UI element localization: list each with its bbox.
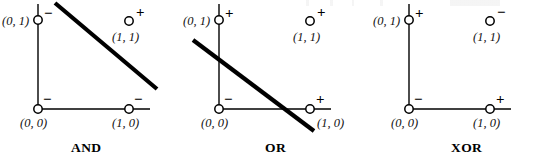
and-sign-1-1: + (136, 4, 145, 20)
and-point-0-1 (34, 16, 42, 24)
xor-point-1-1 (486, 17, 494, 25)
boolean-separability-figure: (0, 1) − (0, 0) − (1, 0) − (1, 1) + AND … (0, 0, 539, 158)
panel-and: (0, 1) − (0, 0) − (1, 0) − (1, 1) + AND (2, 3, 157, 155)
xor-sign-0-0: − (414, 91, 423, 107)
and-label-1-0: (1, 0) (112, 116, 139, 130)
panel-xor: (0, 1) + (0, 0) − (1, 0) + (1, 1) − XOR (373, 4, 511, 155)
figure-canvas: (0, 1) − (0, 0) − (1, 0) − (1, 1) + AND … (0, 0, 539, 158)
and-label-0-1: (0, 1) (2, 14, 29, 28)
or-label-0-1: (0, 1) (183, 14, 210, 28)
xor-point-0-0 (405, 105, 413, 113)
xor-label-0-0: (0, 0) (391, 116, 418, 130)
panel-or: (0, 1) + (0, 0) − (1, 0) + (1, 1) + OR (183, 4, 344, 155)
and-point-1-1 (125, 17, 133, 25)
or-label-1-1: (1, 1) (293, 30, 320, 44)
and-sign-0-0: − (43, 91, 52, 107)
and-sign-0-1: − (44, 5, 53, 21)
xor-sign-1-1: − (497, 4, 506, 20)
xor-sign-0-1: + (415, 5, 424, 21)
or-point-1-1 (306, 17, 314, 25)
or-label-0-0: (0, 0) (201, 116, 228, 130)
or-point-0-1 (215, 16, 223, 24)
and-point-1-0 (125, 105, 133, 113)
xor-label-1-0: (1, 0) (473, 116, 500, 130)
xor-sign-1-0: + (496, 91, 505, 107)
xor-label-1-1: (1, 1) (473, 30, 500, 44)
or-point-0-0 (215, 105, 223, 113)
and-sign-1-0: − (134, 91, 143, 107)
and-point-0-0 (34, 105, 42, 113)
or-sign-1-0: + (316, 91, 325, 107)
xor-point-1-0 (486, 105, 494, 113)
or-label-1-0: (1, 0) (317, 116, 344, 130)
or-gate-label: OR (265, 140, 286, 155)
or-sign-0-0: − (224, 91, 233, 107)
and-gate-label: AND (71, 140, 101, 155)
xor-label-0-1: (0, 1) (373, 14, 400, 28)
and-label-0-0: (0, 0) (20, 116, 47, 130)
xor-gate-label: XOR (451, 140, 482, 155)
or-sign-0-1: + (225, 5, 234, 21)
or-sign-1-1: + (317, 4, 326, 20)
and-label-1-1: (1, 1) (112, 30, 139, 44)
or-point-1-0 (306, 105, 314, 113)
xor-point-0-1 (405, 16, 413, 24)
